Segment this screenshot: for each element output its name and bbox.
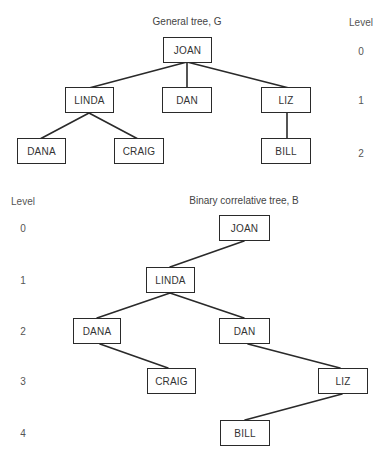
- binary-tree-level-4: 4: [20, 428, 26, 439]
- binary-tree-level-2: 2: [20, 326, 26, 337]
- general-tree-level-2: 2: [358, 148, 364, 159]
- binary-node-liz: LIZ: [318, 368, 368, 394]
- general-tree-level-header: Level: [349, 17, 373, 28]
- general-node-joan: JOAN: [163, 37, 212, 63]
- binary-node-craig: CRAIG: [147, 368, 196, 394]
- general-node-liz: LIZ: [261, 87, 311, 113]
- edge-b-dan-liz: [248, 344, 340, 368]
- general-node-dan: DAN: [162, 87, 212, 113]
- binary-node-bill: BILL: [220, 420, 270, 446]
- binary-tree-title: Binary correlative tree, B: [189, 195, 299, 206]
- edge-b-liz-bill: [245, 394, 342, 420]
- edge-g-joan-linda: [89, 62, 187, 88]
- general-node-linda: LINDA: [65, 87, 114, 113]
- binary-tree-level-3: 3: [20, 376, 26, 387]
- diagram-canvas: General tree, G Level 0 1 2 JOAN LINDA D…: [0, 0, 386, 459]
- edge-g-joan-liz: [187, 62, 289, 88]
- binary-node-linda: LINDA: [146, 267, 195, 293]
- edge-g-linda-craig: [89, 113, 138, 139]
- general-tree-level-0: 0: [358, 46, 364, 57]
- general-tree-title: General tree, G: [153, 16, 222, 27]
- general-node-craig: CRAIG: [114, 138, 164, 164]
- edge-b-joan-linda: [170, 241, 244, 267]
- general-tree-level-1: 1: [358, 95, 364, 106]
- binary-tree-level-1: 1: [20, 275, 26, 286]
- binary-node-joan: JOAN: [219, 215, 270, 241]
- edge-b-dana-craig: [100, 344, 168, 368]
- binary-tree-level-0: 0: [20, 223, 26, 234]
- edge-b-linda-dan: [170, 293, 244, 318]
- binary-node-dana: DANA: [73, 318, 121, 344]
- general-node-dana: DANA: [17, 138, 66, 164]
- edge-g-linda-dana: [40, 113, 89, 139]
- general-node-bill: BILL: [261, 138, 311, 164]
- binary-tree-level-header: Level: [11, 196, 35, 207]
- edge-b-linda-dana: [97, 293, 170, 318]
- binary-node-dan: DAN: [219, 318, 270, 344]
